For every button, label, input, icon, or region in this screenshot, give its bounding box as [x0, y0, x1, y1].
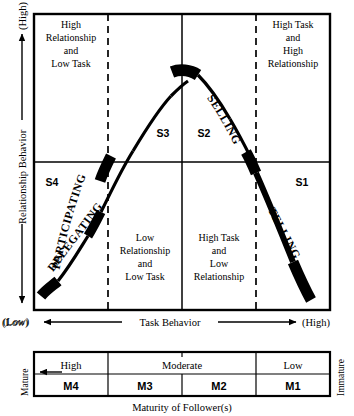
quadrant-top-left: High Relationship and Low Task — [46, 19, 97, 69]
bell-segment-apex-left — [171, 81, 188, 96]
quadrant-tr-line-2: and — [286, 32, 300, 43]
y-axis-high-label: (High) — [17, 2, 29, 30]
maturity-cell-m3: M3 — [137, 380, 152, 392]
x-axis-high-label: (High) — [302, 317, 330, 329]
quadrant-bottom-right: High Task and Low Relationship — [194, 232, 245, 282]
maturity-cell-m4: M4 — [63, 380, 79, 392]
quadrant-tr-line-4: Relationship — [268, 58, 319, 69]
quadrant-top-right: High Task and High Relationship — [268, 19, 319, 69]
bell-segment-far-left — [41, 281, 58, 296]
maturity-cell-m1: M1 — [285, 380, 300, 392]
quadrant-br-line-3: Low — [210, 258, 229, 269]
quadrant-bl-line-4: Low Task — [125, 271, 164, 282]
bell-segment-apex-node — [172, 70, 198, 75]
style-code-s4: S4 — [46, 176, 59, 188]
x-axis-low-label: (Low) — [2, 317, 29, 329]
maturity-cell-m2: M2 — [211, 380, 226, 392]
quadrant-tl-line-3: and — [64, 45, 78, 56]
x-axis: Task Behavior (Low) (High) — [2, 313, 330, 330]
quadrant-br-line-2: and — [212, 245, 226, 256]
quadrant-bl-line-2: Relationship — [120, 245, 171, 256]
figure-canvas: High Relationship and Low Task High Task… — [0, 0, 354, 416]
quadrant-tr-line-1: High Task — [272, 19, 313, 30]
quadrant-bl-line-1: Low — [136, 232, 155, 243]
quadrant-tl-line-2: Relationship — [46, 32, 97, 43]
quadrant-tr-line-3: High — [283, 45, 303, 56]
style-name-telling: TELLING — [266, 205, 303, 261]
quadrant-tl-line-4: Low Task — [51, 58, 90, 69]
curve-style-names: PARTICIPATING SELLING — [50, 92, 244, 270]
maturity-right-label: Immature — [336, 359, 346, 396]
y-axis: Relationship Behavior (High) (Low) — [3, 2, 30, 328]
maturity-table: High Moderate Low M4 M3 M2 M1 Mature Imm… — [20, 352, 346, 414]
y-axis-label: Relationship Behavior — [17, 129, 28, 224]
style-name-telling-group: TELLING — [266, 205, 303, 261]
style-code-s2: S2 — [198, 127, 211, 139]
style-code-s1: S1 — [296, 176, 309, 188]
style-code-s3: S3 — [157, 127, 170, 139]
x-axis-label: Task Behavior — [140, 317, 201, 328]
bell-segment-far-right — [293, 262, 311, 300]
bell-segment-left-upper — [133, 96, 171, 151]
maturity-header-moderate: Moderate — [162, 360, 203, 371]
bell-segment-right-node — [246, 152, 256, 173]
maturity-caption: Maturity of Follower(s) — [132, 402, 232, 414]
quadrant-bottom-left: Low Relationship and Low Task — [120, 232, 171, 282]
maturity-header-low: Low — [283, 360, 303, 371]
quadrant-tl-line-1: High — [61, 19, 81, 30]
situational-leadership-figure: High Relationship and Low Task High Task… — [0, 0, 354, 416]
quadrant-br-line-1: High Task — [198, 232, 239, 243]
style-name-selling: SELLING — [205, 92, 243, 146]
maturity-header-high: High — [61, 360, 83, 371]
bell-segment-left-node — [100, 156, 111, 181]
maturity-left-label: Mature — [20, 369, 30, 396]
quadrant-br-line-4: Relationship — [194, 271, 245, 282]
quadrant-bl-line-3: and — [138, 258, 152, 269]
